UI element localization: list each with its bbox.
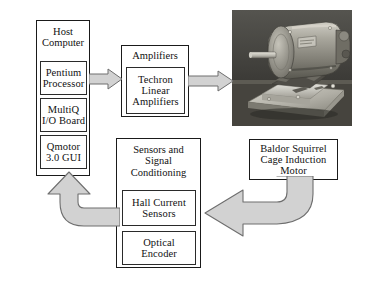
qmotor-gui-label: Qmotor 3.0 GUI [46,141,81,164]
pentium-processor-label: Pentium Processor [43,67,85,90]
host-computer-group: Host Computer Pentium Processor MultiQ I… [36,20,90,176]
optical-encoder-label: Optical Encoder [141,237,177,260]
arrow-sensors-to-host-icon [44,170,120,228]
arrow-amplifiers-to-motor-icon [188,70,234,92]
hall-current-sensors-box: Hall Current Sensors [122,190,196,226]
optical-encoder-box: Optical Encoder [122,231,196,265]
arrow-host-to-amplifiers-icon [89,68,123,90]
host-computer-title: Host Computer [37,26,89,49]
pentium-processor-box: Pentium Processor [40,61,87,95]
sensors-signal-conditioning-group: Sensors and Signal Conditioning Hall Cur… [116,138,201,268]
sensors-signal-conditioning-title: Sensors and Signal Conditioning [117,144,200,178]
block-diagram: Host Computer Pentium Processor MultiQ I… [0,0,373,285]
hall-current-sensors-label: Hall Current Sensors [132,197,186,220]
amplifiers-title: Amplifiers [122,50,188,61]
amplifiers-group: Amplifiers Techron Linear Amplifiers [121,45,189,117]
techron-linear-amplifiers-box: Techron Linear Amplifiers [126,67,185,114]
techron-linear-amplifiers-label: Techron Linear Amplifiers [132,74,179,108]
qmotor-gui-box: Qmotor 3.0 GUI [40,135,87,169]
baldor-motor-caption-label: Baldor Squirrel Cage Induction Motor [260,143,327,177]
arrow-motor-to-sensors-icon [203,176,315,238]
baldor-motor-caption-box: Baldor Squirrel Cage Induction Motor [249,139,338,180]
multiq-io-board-label: MultiQ I/O Board [42,104,85,127]
motor-photograph [232,10,352,126]
multiq-io-board-box: MultiQ I/O Board [40,98,87,132]
